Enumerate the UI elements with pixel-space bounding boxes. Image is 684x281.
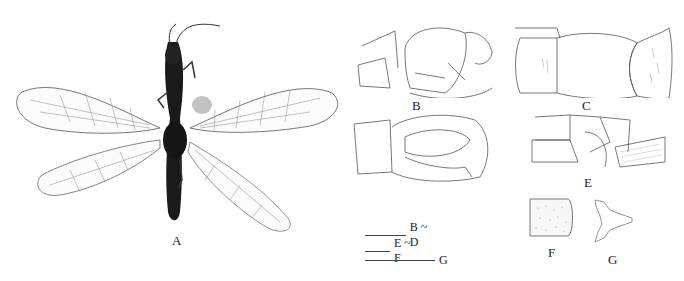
scale-bar-line bbox=[365, 260, 435, 261]
panel-label-e: E bbox=[584, 175, 592, 191]
scale-bar-label: B ~ D bbox=[410, 220, 432, 250]
panel-a: A bbox=[0, 0, 345, 250]
structure-ventral-drawing bbox=[590, 196, 650, 246]
panel-g: G bbox=[590, 196, 650, 271]
panel-e: E bbox=[530, 112, 680, 192]
panel-label-a: A bbox=[172, 233, 181, 249]
panel-label-g: G bbox=[608, 252, 617, 268]
panel-c: C bbox=[512, 18, 682, 113]
panel-f: F bbox=[528, 196, 578, 266]
sclerite-plate-drawing bbox=[528, 196, 578, 241]
abdominal-segments-drawing bbox=[530, 112, 680, 177]
scale-bar-label: G bbox=[439, 253, 448, 268]
panel-d: D bbox=[350, 112, 500, 197]
insect-habitus-image bbox=[0, 0, 345, 250]
genitalia-lateral-drawing bbox=[350, 18, 500, 98]
panel-b: B bbox=[350, 18, 500, 113]
panel-label-f: F bbox=[548, 245, 555, 261]
genitalia-dorsal-drawing bbox=[512, 18, 682, 98]
scale-bar-line bbox=[365, 251, 390, 252]
genitalia-ventral-drawing bbox=[350, 112, 500, 187]
scale-bar-g: G bbox=[365, 253, 448, 268]
